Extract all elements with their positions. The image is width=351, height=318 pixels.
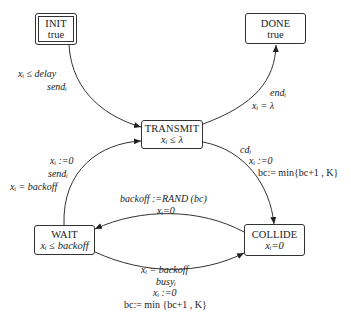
label-transmit-collide-reset: xᵢ :=0 [249,155,273,166]
edge-transmit-done [203,45,276,124]
label-transmit-done-action: endᵢ [270,87,286,98]
edge-collide-wait [95,214,244,232]
state-wait-name: WAIT [35,226,94,240]
label-wait-collide-reset: xᵢ :=0 [153,287,177,298]
state-transmit-name: TRANSMIT [142,121,202,134]
label-wait-transmit-action: sendᵢ [48,168,68,179]
state-done: DONE true [245,13,306,44]
label-init-transmit-guard: xᵢ ≤ delay [18,68,56,79]
label-wait-collide-guard: xᵢ = backoff [141,264,188,275]
label-transmit-collide-action: cdᵢ [240,144,251,155]
state-init-invariant: true [36,29,76,40]
state-done-name: DONE [246,14,305,29]
state-collide-invariant: xᵢ=0 [245,240,304,251]
state-collide-name: COLLIDE [245,225,304,240]
label-collide-wait-update: backoff :=RAND (bc) [120,193,207,204]
edge-wait-transmit [64,141,141,225]
state-wait-invariant: xᵢ ≤ backoff [35,240,94,251]
label-wait-transmit-reset: xᵢ :=0 [50,155,74,166]
state-collide: COLLIDE xᵢ=0 [244,224,305,256]
state-init: INIT true [35,13,77,45]
label-transmit-done-guard: xᵢ = λ [252,100,274,111]
label-wait-transmit-guard: xᵢ = backoff [10,181,57,192]
state-init-name: INIT [36,14,76,29]
edge-init-transmit [69,45,141,127]
label-init-transmit-action: sendᵢ [47,81,67,92]
state-wait: WAIT xᵢ ≤ backoff [34,225,95,255]
label-transmit-collide-update: bc:= min{bc+1 , K} [258,167,338,178]
label-wait-collide-action: busyᵢ [156,276,176,287]
state-done-invariant: true [246,29,305,40]
label-wait-collide-update: bc:= min {bc+1 , K} [124,299,207,310]
state-transmit: TRANSMIT xᵢ ≤ λ [141,120,203,149]
label-collide-wait-reset: xᵢ=0 [157,205,175,216]
state-transmit-invariant: xᵢ ≤ λ [142,134,202,145]
